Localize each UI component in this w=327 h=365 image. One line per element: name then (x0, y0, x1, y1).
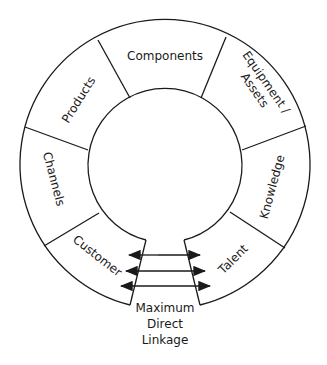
linkage-caption-line2: Direct (147, 317, 183, 331)
segment-label-customer: Customer (70, 232, 125, 279)
linkage-caption-line3: Linkage (142, 333, 189, 347)
ring-diagram: Components Equipment / Assets Knowledge … (0, 0, 327, 365)
segment-label-channels: Channels (40, 150, 68, 207)
segment-label-talent: Talent (215, 241, 251, 277)
linkage-caption-line1: Maximum (135, 301, 194, 315)
linkage-arrows (121, 255, 210, 286)
segment-label-knowledge: Knowledge (257, 153, 288, 220)
segment-label-products: Products (59, 74, 98, 125)
segment-label-components: Components (127, 49, 203, 63)
